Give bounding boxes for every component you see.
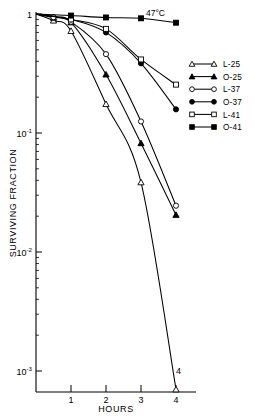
- data-point-filled-square: [190, 125, 195, 130]
- legend-item-O-25[interactable]: O-25: [189, 73, 242, 82]
- chart-legend: L-25O-25L-37O-37L-41O-41: [189, 60, 242, 132]
- legend-item-L-25[interactable]: L-25: [189, 60, 240, 69]
- legend-label: L-41: [223, 111, 240, 120]
- legend-label: L-25: [223, 60, 240, 69]
- legend-label: O-37: [223, 98, 242, 107]
- data-point-filled-circle: [190, 99, 195, 104]
- data-point-open-circle: [173, 203, 178, 208]
- x-axis-title: HOURS: [98, 404, 134, 414]
- series-line: [36, 14, 176, 206]
- legend-label: L-37: [223, 85, 240, 94]
- y-axis-ticks: [36, 14, 42, 371]
- data-point-open-circle: [138, 119, 143, 124]
- axes: [36, 12, 196, 392]
- data-point-filled-circle: [212, 99, 217, 104]
- data-point-filled-square: [174, 20, 179, 25]
- data-point-open-circle: [103, 52, 108, 57]
- data-point-open-square: [174, 82, 179, 87]
- data-point-filled-square: [139, 16, 144, 21]
- data-point-open-square: [190, 112, 195, 117]
- x-tick-label: 1: [68, 395, 73, 405]
- data-point-open-triangle: [103, 101, 109, 107]
- series-line: [36, 14, 176, 215]
- data-point-open-triangle: [68, 28, 74, 34]
- data-point-filled-triangle: [173, 212, 179, 218]
- series-L-25: [36, 14, 179, 392]
- y-axis-tick-labels: 110-110-210-3: [16, 10, 32, 377]
- data-point-filled-square: [212, 125, 217, 130]
- data-point-open-circle: [190, 87, 195, 92]
- legend-label: O-25: [223, 73, 242, 82]
- x-axis-ticks: [71, 385, 176, 392]
- y-axis-title: SURVIVING FRACTION: [8, 149, 18, 258]
- x-tick-label: 4: [173, 395, 178, 405]
- data-point-open-triangle: [173, 386, 179, 392]
- y-tick-label: 10-3: [16, 365, 32, 377]
- data-point-filled-triangle: [138, 140, 144, 146]
- y-tick-label: 1: [27, 10, 32, 20]
- data-point-filled-triangle: [103, 71, 109, 77]
- survival-curve-figure: 110-110-210-3 1234 SURVIVING FRACTION HO…: [0, 0, 255, 417]
- y-tick-label: 10-2: [16, 246, 32, 258]
- data-series-layer: [36, 13, 179, 392]
- legend-item-O-41[interactable]: O-41: [190, 123, 243, 132]
- data-point-filled-circle: [173, 107, 178, 112]
- data-point-filled-square: [104, 15, 109, 20]
- curve-endpoint-label: 4: [176, 366, 181, 376]
- data-point-open-triangle: [138, 179, 144, 185]
- temperature-annotation: 47°C: [146, 8, 165, 18]
- legend-item-L-37[interactable]: L-37: [190, 85, 241, 94]
- legend-item-L-41[interactable]: L-41: [190, 111, 241, 120]
- data-point-filled-square: [69, 13, 74, 18]
- data-point-open-square: [212, 112, 217, 117]
- legend-label: O-41: [223, 123, 242, 132]
- series-L-37: [36, 14, 179, 208]
- series-O-25: [36, 14, 179, 217]
- plot-canvas: 110-110-210-3 1234 SURVIVING FRACTION HO…: [0, 0, 255, 417]
- legend-item-O-37[interactable]: O-37: [190, 98, 243, 107]
- data-point-open-square: [104, 26, 109, 31]
- y-tick-label: 10-1: [16, 127, 32, 139]
- data-point-open-circle: [212, 87, 217, 92]
- data-point-open-square: [139, 57, 144, 62]
- x-tick-label: 3: [138, 395, 143, 405]
